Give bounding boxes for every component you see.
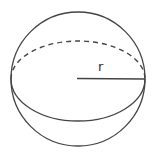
radius-label: r <box>98 59 104 74</box>
equator-front <box>11 79 145 121</box>
equator-back-dashed <box>11 41 145 79</box>
radius-line <box>77 79 145 80</box>
sphere-diagram: r <box>0 0 153 160</box>
